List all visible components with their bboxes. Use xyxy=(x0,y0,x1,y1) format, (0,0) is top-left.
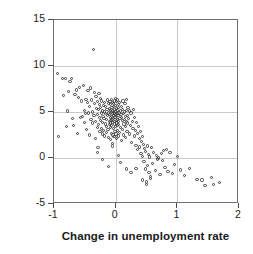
x-axis-tick-label: -1 xyxy=(38,208,68,220)
data-point xyxy=(176,155,179,158)
data-point xyxy=(150,146,153,149)
data-point xyxy=(133,134,136,137)
y-axis-tick xyxy=(48,19,53,20)
data-point xyxy=(125,98,128,101)
data-point xyxy=(142,143,145,146)
y-axis-tick xyxy=(48,111,53,112)
data-point xyxy=(83,121,86,124)
data-point xyxy=(76,132,79,135)
data-point xyxy=(151,162,154,165)
data-point xyxy=(68,80,71,83)
data-point xyxy=(142,160,145,163)
data-point xyxy=(127,117,130,120)
data-point xyxy=(123,102,126,105)
data-point xyxy=(67,90,70,93)
data-point xyxy=(157,156,160,159)
data-point xyxy=(103,101,106,104)
data-point xyxy=(71,117,74,120)
data-point xyxy=(103,134,106,137)
data-point xyxy=(124,125,127,128)
data-point xyxy=(129,111,132,114)
data-point xyxy=(97,92,100,95)
data-point xyxy=(183,174,186,177)
data-point xyxy=(137,125,140,128)
data-point xyxy=(200,178,203,181)
data-point xyxy=(128,132,131,135)
data-point xyxy=(168,151,171,154)
data-point xyxy=(145,180,148,183)
data-point xyxy=(93,91,96,94)
y-axis-tick-label: 15 xyxy=(0,12,45,24)
data-point xyxy=(75,88,78,91)
data-point xyxy=(138,145,141,148)
data-point xyxy=(149,177,152,180)
data-point xyxy=(130,141,133,144)
data-point xyxy=(179,168,182,171)
data-point xyxy=(115,137,118,140)
data-point xyxy=(56,72,59,75)
data-point xyxy=(203,184,206,187)
data-point xyxy=(125,167,128,170)
data-point xyxy=(81,115,84,118)
gridline-horizontal xyxy=(54,112,237,113)
data-point xyxy=(64,77,67,80)
data-point xyxy=(111,144,114,147)
data-point xyxy=(188,167,191,170)
data-point xyxy=(121,128,124,131)
y-axis-tick-label: 0 xyxy=(0,150,45,162)
data-point xyxy=(72,124,75,127)
data-point xyxy=(86,101,89,104)
data-point xyxy=(118,101,121,104)
y-axis-tick-label: 5 xyxy=(0,104,45,116)
data-point xyxy=(73,93,76,96)
data-point xyxy=(212,183,215,186)
data-point xyxy=(218,181,221,184)
data-point xyxy=(96,151,99,154)
data-point xyxy=(147,171,150,174)
data-point xyxy=(57,135,60,138)
data-point xyxy=(139,130,142,133)
data-point xyxy=(101,158,104,161)
data-point xyxy=(87,111,90,114)
data-point xyxy=(94,137,97,140)
data-point xyxy=(62,94,65,97)
data-point xyxy=(66,109,69,112)
x-axis-tick-label: 1 xyxy=(161,208,191,220)
data-point xyxy=(145,183,148,186)
data-point xyxy=(132,108,135,111)
data-point xyxy=(165,148,168,151)
data-point xyxy=(94,95,97,98)
y-axis-tick xyxy=(48,65,53,66)
data-point xyxy=(154,169,157,172)
data-point xyxy=(82,84,85,87)
data-point xyxy=(135,121,138,124)
plot-area xyxy=(53,19,238,203)
data-point xyxy=(160,152,163,155)
x-axis-tick-label: 0 xyxy=(100,208,130,220)
data-point xyxy=(65,125,68,128)
data-point xyxy=(118,131,121,134)
x-axis-tick-label: 2 xyxy=(223,208,253,220)
data-point xyxy=(146,144,149,147)
data-point xyxy=(173,163,176,166)
data-point xyxy=(117,154,120,157)
y-axis-tick xyxy=(48,203,53,204)
data-point xyxy=(120,139,123,142)
data-point xyxy=(129,171,132,174)
data-point xyxy=(92,48,95,51)
data-point xyxy=(97,123,100,126)
data-point xyxy=(109,138,112,141)
data-point xyxy=(195,178,198,181)
data-point xyxy=(144,167,147,170)
data-point xyxy=(90,98,93,101)
data-point xyxy=(96,146,99,149)
gridline-vertical xyxy=(177,20,178,202)
data-point xyxy=(96,126,99,129)
data-point xyxy=(85,128,88,131)
data-point xyxy=(171,172,174,175)
data-point xyxy=(124,136,127,139)
data-point xyxy=(134,167,137,170)
data-point xyxy=(131,120,134,123)
data-point xyxy=(136,148,139,151)
data-point xyxy=(141,135,144,138)
